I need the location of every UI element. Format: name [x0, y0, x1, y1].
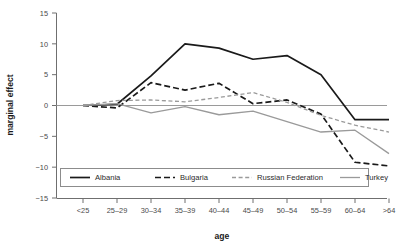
x-tick-label: 40–44: [209, 206, 230, 215]
x-tick-label: >64: [383, 206, 396, 215]
x-tick-label: 35–39: [175, 206, 196, 215]
legend-label-bulgaria: Bulgaria: [180, 173, 209, 182]
x-tick-label: <25: [77, 206, 90, 215]
chart-svg: 151050−5−10−15 <2525–2930–3435–3940–4445…: [0, 0, 398, 244]
y-axis-tick-labels: 151050−5−10−15: [35, 9, 48, 203]
x-tick-label: 60–64: [345, 206, 366, 215]
x-tick-label: 55–59: [311, 206, 332, 215]
marginal-effect-line-chart: 151050−5−10−15 <2525–2930–3435–3940–4445…: [0, 0, 398, 244]
x-tick-label: 25–29: [107, 206, 128, 215]
y-tick-label: −10: [35, 163, 48, 172]
y-tick-label: 10: [40, 40, 48, 49]
x-tick-label: 45–49: [243, 206, 264, 215]
y-tick-label: −5: [40, 132, 48, 141]
x-tick-label: 50–54: [277, 206, 298, 215]
legend-label-albania: Albania: [95, 173, 121, 182]
legend: AlbaniaBulgariaRussian FederationTurkey: [61, 169, 389, 187]
y-axis-group: 151050−5−10−15: [35, 9, 56, 203]
x-tick-label: 30–34: [141, 206, 162, 215]
series-line-albania: [83, 44, 389, 120]
x-axis-tick-marks: [83, 199, 389, 204]
data-series-group: [83, 44, 389, 166]
x-axis-group: <2525–2930–3435–3940–4445–4950–5455–5960…: [57, 199, 396, 216]
x-axis-title: age: [215, 231, 230, 241]
series-line-turkey: [83, 104, 389, 154]
y-tick-label: −15: [35, 194, 48, 203]
legend-label-russian-federation: Russian Federation: [257, 173, 323, 182]
y-tick-label: 15: [40, 9, 48, 18]
legend-label-turkey: Turkey: [365, 173, 388, 182]
y-axis-tick-marks: [52, 13, 57, 198]
y-axis-title: marginal effect: [5, 74, 15, 135]
y-tick-label: 5: [44, 70, 48, 79]
x-axis-tick-labels: <2525–2930–3435–3940–4445–4950–5455–5960…: [77, 206, 396, 215]
y-tick-label: 0: [44, 101, 48, 110]
